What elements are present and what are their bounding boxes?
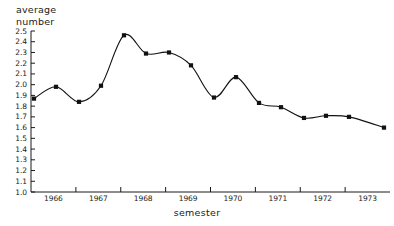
y-tick-label: 1.9 <box>5 91 27 100</box>
x-axis-title: semester <box>0 207 394 218</box>
data-point: 1966-1: 1.87 <box>32 97 36 101</box>
chart-axes <box>31 31 390 192</box>
x-tick-label: 1966 <box>38 194 68 203</box>
data-point: 1972-2: 1.71 <box>324 114 328 118</box>
data-point: 1969-2: 2.18 <box>189 63 193 67</box>
data-point: 1973-1: 1.7 <box>347 115 351 119</box>
y-tick-label: 1.0 <box>5 188 27 197</box>
y-tick-label: 2.5 <box>5 27 27 36</box>
y-tick-label: 2.0 <box>5 80 27 89</box>
data-point: 1969-1: 2.3 <box>167 50 171 54</box>
x-tick-label: 1968 <box>128 194 158 203</box>
data-point: 1967-2: 1.99 <box>99 84 103 88</box>
y-tick-label: 1.7 <box>5 112 27 121</box>
y-tick-label: 1.5 <box>5 134 27 143</box>
x-tick-label: 1973 <box>353 194 383 203</box>
y-tick-label: 1.4 <box>5 145 27 154</box>
x-tick-label: 1972 <box>308 194 338 203</box>
data-point: 1968-2: 2.29 <box>144 51 148 55</box>
data-point: 1971-2: 1.79 <box>279 105 283 109</box>
x-tick-label: 1969 <box>173 194 203 203</box>
y-tick-label: 2.2 <box>5 59 27 68</box>
data-point: 1973-2: 1.6 <box>382 126 386 130</box>
x-tick-label: 1970 <box>218 194 248 203</box>
chart-container: average number 1966-1: 1.871966-2: 1.981… <box>0 0 394 226</box>
chart-plot-area: 1966-1: 1.871966-2: 1.981967-1: 1.841967… <box>0 0 394 226</box>
y-tick-label: 1.8 <box>5 102 27 111</box>
x-tick-label: 1967 <box>83 194 113 203</box>
data-point: 1970-2: 2.07 <box>234 75 238 79</box>
y-tick-label: 2.4 <box>5 37 27 46</box>
y-axis-ticks <box>31 31 35 192</box>
data-point: 1971-1: 1.83 <box>257 101 261 105</box>
data-point: 1967-1: 1.84 <box>77 100 81 104</box>
y-tick-label: 2.1 <box>5 69 27 78</box>
x-tick-label: 1971 <box>263 194 293 203</box>
y-tick-label: 1.2 <box>5 166 27 175</box>
y-tick-label: 1.1 <box>5 177 27 186</box>
data-point: 1966-2: 1.98 <box>54 85 58 89</box>
y-tick-label: 1.6 <box>5 123 27 132</box>
data-series-line <box>34 34 384 127</box>
x-axis-ticks <box>76 187 345 192</box>
data-point: 1972-1: 1.69 <box>302 116 306 120</box>
data-point: 1968-1: 2.46 <box>122 33 126 37</box>
y-tick-label: 1.3 <box>5 155 27 164</box>
y-tick-label: 2.3 <box>5 48 27 57</box>
data-point: 1970-1: 1.88 <box>212 95 216 99</box>
